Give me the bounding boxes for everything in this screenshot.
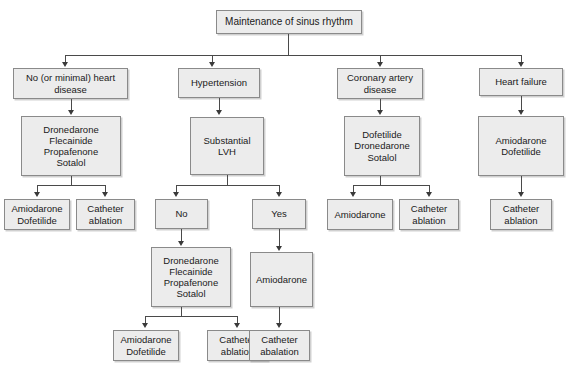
node-nhd-amiodarone-dofetilide: Amiodarone Dofetilide <box>4 199 70 230</box>
node-heart-failure: Heart failure <box>479 68 563 96</box>
node-nhd-catheter-ablation: Catheter ablation <box>76 199 135 230</box>
arrow-htn-no-drugs <box>178 241 184 246</box>
arrow-branch-3 <box>377 62 383 67</box>
node-htn-yes-amiodarone: Amiodarone <box>250 252 313 307</box>
node-nhd-drugs: Dronedarone Flecainide Propafenone Sotal… <box>21 116 121 176</box>
connector-hf-1 <box>521 96 522 111</box>
arrow-cad-ablation <box>426 192 432 197</box>
connector-cad-2 <box>380 176 381 185</box>
connector-hf-2 <box>521 176 522 193</box>
node-htn-no: No <box>155 199 208 229</box>
connector-htn-no-split <box>145 316 237 317</box>
node-hypertension: Hypertension <box>178 68 260 98</box>
connector-main-bus <box>65 55 521 56</box>
node-htn-no-drugs: Dronedarone Flecainide Propafenone Sotal… <box>151 247 231 307</box>
arrow-branch-2 <box>209 62 215 67</box>
node-substantial-lvh: Substantial LVH <box>190 117 264 175</box>
node-htn-yes-catheter-abalation: Catheter abalation <box>249 330 310 361</box>
connector-cad-split <box>353 185 429 186</box>
arrow-htn-yes <box>276 192 282 197</box>
node-root: Maintenance of sinus rhythm <box>216 10 362 34</box>
arrow-htn-no <box>173 192 179 197</box>
arrow-htn-lvh <box>216 110 222 115</box>
arrow-nhd-amio <box>34 192 40 197</box>
connector-root-stem <box>288 34 289 55</box>
arrow-branch-1 <box>62 62 68 67</box>
node-cad-drugs: Dofetilide Dronedarone Sotalol <box>344 116 420 176</box>
flowchart-canvas: Maintenance of sinus rhythm No (or minim… <box>0 0 576 375</box>
connector-htn-split <box>176 185 279 186</box>
node-coronary-artery-disease: Coronary artery disease <box>337 68 423 99</box>
arrow-nhd-drugs <box>68 110 74 115</box>
connector-htn-2 <box>227 175 228 185</box>
arrow-htn-yes-amio <box>276 246 282 251</box>
arrow-nhd-ablation <box>102 192 108 197</box>
arrow-htn-yes-ablation <box>276 323 282 328</box>
arrow-branch-4 <box>518 62 524 67</box>
arrow-hf-drugs <box>518 110 524 115</box>
arrow-htn-no-ablation <box>234 323 240 328</box>
node-hf-drugs: Amiodarone Dofetilide <box>478 116 564 176</box>
node-hf-catheter-ablation: Catheter ablation <box>490 199 552 230</box>
arrow-hf-ablation <box>518 192 524 197</box>
connector-htn-no-drugs-2 <box>181 307 182 316</box>
connector-nhd-2 <box>71 176 72 185</box>
node-htn-yes: Yes <box>252 199 306 229</box>
arrow-cad-amio <box>350 192 356 197</box>
connector-htn-yes-ablation <box>279 307 280 324</box>
node-cad-catheter-ablation: Catheter ablation <box>399 199 459 230</box>
node-cad-amiodarone: Amiodarone <box>327 199 393 230</box>
arrow-htn-no-amio <box>142 323 148 328</box>
connector-nhd-split <box>37 185 105 186</box>
node-htn-no-amiodarone-dofetilide: Amiodarone Dofetilide <box>113 330 179 361</box>
arrow-cad-drugs <box>377 110 383 115</box>
connector-htn-yes-amio <box>279 229 280 247</box>
node-no-heart-disease: No (or minimal) heart disease <box>13 68 128 99</box>
